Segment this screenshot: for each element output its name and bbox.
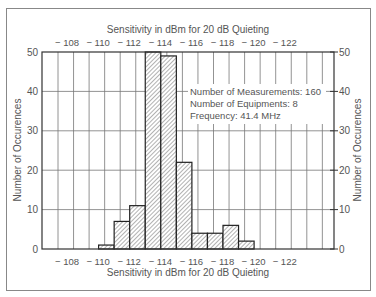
y-tick-label-left: 20	[27, 165, 39, 176]
x-tick-label-bottom: − 114	[149, 256, 172, 267]
histogram-bar	[239, 241, 255, 249]
x-tick-label-bottom: − 110	[86, 256, 109, 267]
x-axis-title-top: Sensitivity in dBm for 20 dB Quieting	[107, 24, 269, 35]
x-tick-label-top: − 114	[149, 37, 172, 48]
histogram-bar	[176, 162, 192, 249]
histogram-bar	[114, 221, 130, 249]
histogram-bar	[192, 233, 208, 249]
y-tick-label-right: 40	[339, 86, 351, 97]
y-tick-label-left: 40	[27, 86, 39, 97]
y-tick-label-right: 30	[339, 125, 351, 136]
histogram-chart: 0010102020303040405050− 108− 108− 110− 1…	[0, 0, 376, 297]
x-tick-label-top: − 122	[273, 37, 297, 48]
x-tick-label-bottom: − 120	[242, 256, 266, 267]
y-tick-label-left: 10	[27, 204, 39, 215]
x-axis-title-bottom: Sensitivity in dBm for 20 dB Quieting	[107, 267, 269, 278]
histogram-bar	[145, 52, 161, 249]
y-axis-title-left: Number of Occurences	[12, 99, 23, 202]
annotation-line: Frequency: 41.4 MHz	[190, 110, 281, 121]
x-tick-label-top: − 120	[242, 37, 266, 48]
y-tick-label-left: 30	[27, 125, 39, 136]
histogram-bar	[130, 206, 146, 249]
x-tick-label-bottom: − 118	[211, 256, 234, 267]
y-tick-label-left: 50	[27, 47, 39, 58]
x-tick-label-top: − 108	[55, 37, 79, 48]
x-tick-label-top: − 118	[211, 37, 234, 48]
x-tick-label-top: − 116	[180, 37, 203, 48]
annotation-line: Number of Equipments: 8	[190, 98, 298, 109]
y-axis-title-right: Number of Occurences	[352, 99, 363, 202]
histogram-bar	[207, 233, 223, 249]
histogram-bar	[161, 56, 177, 249]
x-tick-label-bottom: − 116	[180, 256, 203, 267]
x-tick-label-top: − 110	[86, 37, 109, 48]
x-tick-label-top: − 112	[118, 37, 141, 48]
y-tick-label-left: 0	[32, 244, 38, 255]
annotation-line: Number of Measurements: 160	[190, 86, 321, 97]
y-tick-label-right: 20	[339, 165, 351, 176]
x-tick-label-bottom: − 108	[55, 256, 79, 267]
histogram-bar	[223, 225, 239, 249]
y-tick-label-right: 10	[339, 204, 351, 215]
y-tick-label-right: 50	[339, 47, 351, 58]
x-tick-label-bottom: − 112	[118, 256, 141, 267]
x-tick-label-bottom: − 122	[273, 256, 297, 267]
y-tick-label-right: 0	[339, 244, 345, 255]
